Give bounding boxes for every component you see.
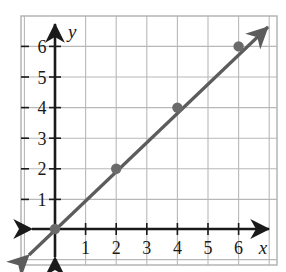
y-tick-label-2: 2 — [38, 159, 47, 179]
coordinate-graph-figure: 6 5 4 3 2 1 1 2 3 4 5 6 y x — [0, 0, 286, 272]
x-tick-label-6: 6 — [234, 238, 243, 258]
x-tick-label-3: 3 — [142, 238, 151, 258]
y-tick-label-1: 1 — [38, 190, 47, 210]
y-tick-label-4: 4 — [38, 98, 47, 118]
y-tick-label-6: 6 — [38, 37, 47, 57]
y-tick-label-3: 3 — [38, 129, 47, 149]
data-point-2-2[interactable] — [111, 164, 121, 174]
data-point-4-4[interactable] — [172, 102, 182, 112]
coordinate-plane-svg: 6 5 4 3 2 1 1 2 3 4 5 6 y x — [0, 0, 286, 272]
x-tick-label-5: 5 — [204, 238, 213, 258]
data-point-6-6[interactable] — [233, 41, 243, 51]
y-axis-label: y — [66, 21, 77, 42]
data-point-0-0[interactable] — [50, 224, 60, 234]
y-tick-label-5: 5 — [38, 68, 47, 88]
x-axis-label: x — [258, 237, 268, 258]
x-tick-label-4: 4 — [173, 238, 182, 258]
x-tick-label-2: 2 — [112, 238, 121, 258]
x-tick-label-1: 1 — [81, 238, 90, 258]
